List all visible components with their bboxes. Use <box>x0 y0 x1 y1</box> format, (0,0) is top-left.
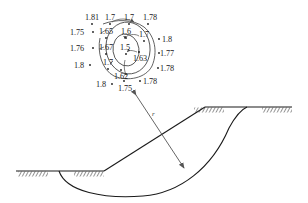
fos-value-label: 1.75 <box>70 29 84 37</box>
grid-point-dot <box>120 69 122 71</box>
hatch-lower-right <box>74 172 104 177</box>
grid-point-dot <box>92 31 94 33</box>
fos-value-label: 1.7 <box>139 31 149 39</box>
ground-hatching <box>18 108 292 177</box>
grid-point-dot <box>139 80 141 82</box>
slope-stability-drawing <box>0 0 308 203</box>
grid-point-dot <box>158 38 160 40</box>
radius-line <box>136 95 184 168</box>
fos-value-label: 1.7 <box>103 59 113 67</box>
fos-value-label: 1.65 <box>99 28 113 36</box>
figure-canvas: 1.811.71.71.781.751.651.61.71.81.761.671… <box>0 0 308 203</box>
grid-point-dot <box>128 23 130 25</box>
fos-value-label: 1.7 <box>105 14 115 22</box>
fos-value-label: 1.6 <box>121 28 131 36</box>
radius-arrow <box>136 95 184 168</box>
fos-value-label: 1.78 <box>143 78 157 86</box>
fos-value-label: 1.81 <box>85 14 99 22</box>
fos-value-label: 1.8 <box>162 36 172 44</box>
grid-point-dot <box>92 47 94 49</box>
hatch-upper-left <box>194 108 224 113</box>
fos-value-label: 1.67 <box>99 44 113 52</box>
fos-value-label: 1.8 <box>74 62 84 70</box>
fos-value-label: 1.78 <box>160 65 174 73</box>
hatch-lower-left <box>18 172 48 177</box>
grid-point-dot <box>105 53 107 55</box>
grid-point-dot <box>125 37 127 39</box>
grid-point-dot <box>109 23 111 25</box>
grid-point-dot <box>105 37 107 39</box>
fos-value-label: 1.63 <box>133 55 147 63</box>
grid-point-dot <box>143 40 145 42</box>
fos-value-label: 1.7 <box>124 14 134 22</box>
grid-point-dot <box>91 23 93 25</box>
grid-point-dot <box>157 67 159 69</box>
fos-value-label: 1.5 <box>120 44 130 52</box>
hatch-upper-right <box>262 108 292 113</box>
fos-value-label: 1.78 <box>143 14 157 22</box>
grid-point-dot <box>147 23 149 25</box>
grid-point-dot <box>107 68 109 70</box>
grid-point-dot <box>125 53 127 55</box>
fos-value-label: 1.62 <box>114 73 128 81</box>
fos-value-label: 1.77 <box>160 50 174 58</box>
grid-point-dot <box>111 83 113 85</box>
grid-point-dot <box>138 51 140 53</box>
grid-point-dot <box>89 64 91 66</box>
radius-label: r <box>152 110 155 118</box>
fos-value-label: 1.76 <box>70 45 84 53</box>
fos-value-label: 1.75 <box>118 85 132 93</box>
fos-value-label: 1.8 <box>96 81 106 89</box>
